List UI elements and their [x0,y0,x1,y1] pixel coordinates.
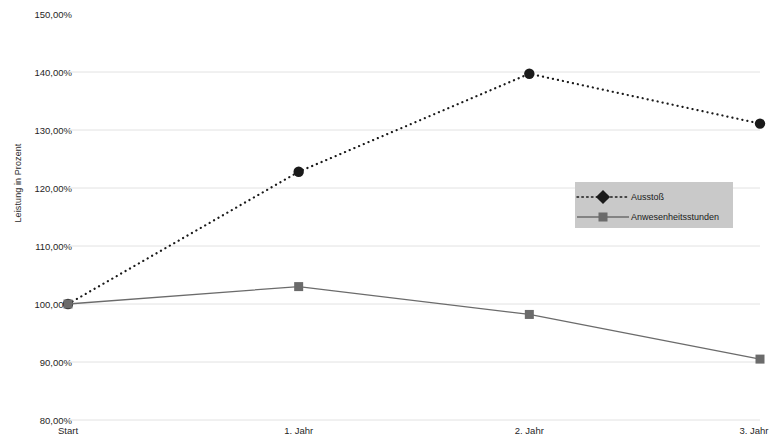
legend-entry-ausstoss[interactable]: Ausstoß [575,187,733,207]
line-chart: Leistung in Prozent 150,00%140,00%130,00… [0,0,776,440]
x-axis-tick-0: Start [58,425,78,436]
legend-entry-anwesenheitsstunden[interactable]: Anwesenheitsstunden [575,207,733,227]
series-line-1 [68,287,760,360]
data-point-0-2 [524,69,534,79]
legend-marker-square-solid [575,208,631,226]
data-point-0-1 [293,167,303,177]
data-point-1-2 [525,310,534,319]
x-axis-tick-2: 2. Jahr [515,425,544,436]
data-point-1-3 [756,355,765,364]
chart-legend: Ausstoß Anwesenheitsstunden [575,182,733,228]
data-point-1-0 [64,300,73,309]
data-point-0-3 [755,118,765,128]
x-axis-tick-1: 1. Jahr [284,425,313,436]
x-axis-tick-3: 3. Jahr [739,425,768,436]
data-point-1-1 [294,282,303,291]
legend-label-ausstoss: Ausstoß [631,192,664,202]
legend-marker-diamond-dotted [575,188,631,206]
legend-label-anwesenheitsstunden: Anwesenheitsstunden [631,212,719,222]
